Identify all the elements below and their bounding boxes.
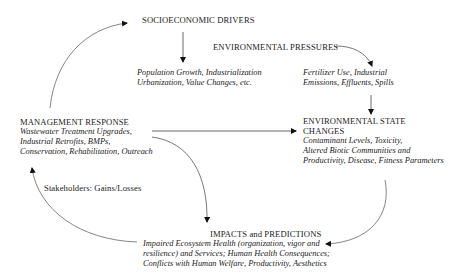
arrow-management-to-impacts (152, 137, 207, 222)
impacts-title: IMPACTS and PREDICTIONS (143, 229, 330, 239)
impacts-line: resilience) and Services; Human Health C… (143, 249, 330, 259)
environmental-pressures-title: ENVIRONMENTAL PRESSURES (213, 42, 338, 52)
drivers-line: Urbanization, Value Changes, etc. (137, 78, 262, 88)
state-changes-title: ENVIRONMENTAL STATE (303, 116, 444, 126)
state-changes-line: Altered Biotic Communities and (303, 146, 444, 156)
arrow-management-to-drivers (50, 23, 127, 108)
management-line: Conservation, Rehabilitation, Outreach (20, 147, 153, 157)
management-line: Wastewater Treatment Upgrades, (20, 127, 153, 137)
environmental-state-changes: ENVIRONMENTAL STATE CHANGES Contaminant … (303, 116, 444, 166)
management-response: MANAGEMENT RESPONSE Wastewater Treatment… (20, 117, 153, 157)
arrow-impacts-to-management (32, 168, 137, 242)
management-line: Industrial Retrofits, BMPs, (20, 137, 153, 147)
impacts-line: Conflicts with Human Welfare, Productivi… (143, 259, 330, 269)
management-title: MANAGEMENT RESPONSE (20, 117, 153, 127)
pressures-line: Emissions, Effluents, Spills (303, 78, 394, 88)
drivers-line: Population Growth, Industrialization (137, 68, 262, 78)
state-changes-line: Productivity, Disease, Fitness Parameter… (303, 156, 444, 166)
pressures-description: Fertilizer Use, Industrial Emissions, Ef… (303, 68, 394, 88)
state-changes-line: Contaminant Levels, Toxicity, (303, 136, 444, 146)
socioeconomic-drivers-title: SOCIOECONOMIC DRIVERS (142, 15, 255, 25)
impacts-and-predictions: IMPACTS and PREDICTIONS Impaired Ecosyst… (143, 229, 330, 269)
arrow-state-to-impacts (326, 180, 386, 244)
state-changes-title: CHANGES (303, 126, 444, 136)
impacts-line: Impaired Ecosystem Health (organization,… (143, 239, 330, 249)
drivers-description: Population Growth, Industrialization Urb… (137, 68, 262, 88)
pressures-line: Fertilizer Use, Industrial (303, 68, 394, 78)
stakeholders-label: Stakeholders: Gains/Losses (44, 183, 141, 193)
arrow-pressures-down (336, 46, 372, 66)
